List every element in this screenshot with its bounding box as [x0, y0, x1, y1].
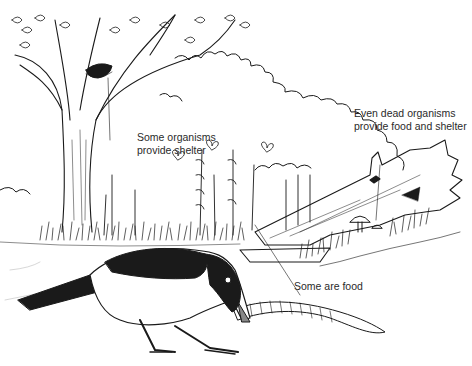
pointer-line-shelter — [108, 78, 110, 140]
foxglove-spikes — [104, 150, 310, 235]
earthworm — [234, 301, 385, 333]
label-food: Some are food — [294, 280, 363, 293]
background-hedge — [0, 51, 404, 194]
label-shelter-line2: provide shelter — [137, 144, 216, 157]
label-dead-organisms: Even dead organisms provide food and she… — [354, 107, 467, 133]
pointer-line-dead — [376, 165, 380, 220]
bird-nest — [86, 64, 112, 78]
scene-drawing — [0, 0, 472, 366]
label-dead-line2: provide food and shelter — [354, 120, 467, 133]
illustration: Some organisms provide shelter Even dead… — [0, 0, 472, 366]
label-shelter-line1: Some organisms — [137, 131, 216, 144]
fallen-dead-tree — [240, 140, 462, 262]
label-shelter: Some organisms provide shelter — [137, 131, 216, 157]
label-food-line1: Some are food — [294, 280, 363, 293]
label-dead-line1: Even dead organisms — [354, 107, 467, 120]
magpie — [18, 248, 250, 354]
